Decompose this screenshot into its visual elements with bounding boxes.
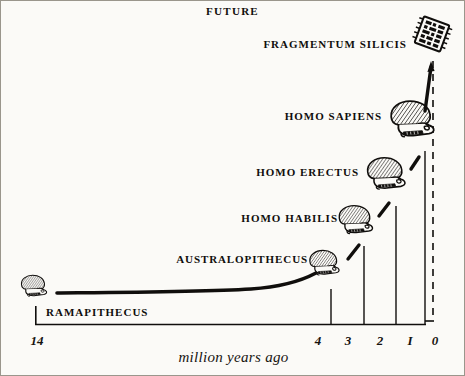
tick-label-4: 4 <box>315 334 322 347</box>
tick-label-14: 14 <box>31 334 44 347</box>
skull-icon-sapiens <box>391 101 434 137</box>
skull-icon-habilis <box>339 206 372 234</box>
skull-icon-australopithecus <box>310 250 339 274</box>
label-ramapithecus: RAMAPITHECUS <box>46 307 148 318</box>
tick-label-0: 0 <box>432 334 439 347</box>
evolution-figure: FUTURE FRAGMENTUM SILICIS HOMO SAPIENS H… <box>0 0 465 376</box>
x-axis-caption: million years ago <box>1 349 465 366</box>
tick-label-3: 3 <box>345 334 352 347</box>
skull-icon-erectus <box>368 158 405 189</box>
label-homo-sapiens: HOMO SAPIENS <box>285 111 382 122</box>
skull-icon-ramapithecus <box>21 275 46 296</box>
figure-drawing <box>1 1 465 376</box>
tick-label-1: I <box>407 334 412 347</box>
label-fragmentum-silicis: FRAGMENTUM SILICIS <box>263 39 407 50</box>
label-australopithecus: AUSTRALOPITHECUS <box>176 254 308 265</box>
label-homo-habilis: HOMO HABILIS <box>241 213 338 224</box>
label-homo-erectus: HOMO ERECTUS <box>256 167 359 178</box>
silicon-chip-icon <box>411 15 453 53</box>
page-title: FUTURE <box>1 6 464 17</box>
tick-label-2: 2 <box>377 334 384 347</box>
evolution-curve <box>57 273 316 293</box>
